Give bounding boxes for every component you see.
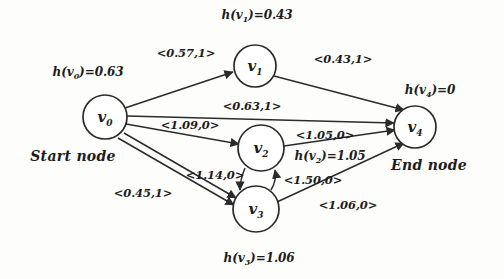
edge-label-v3-v4: <1.06,0> [319,198,378,212]
edge-label-v2-v4: <1.05,0> [296,128,355,142]
heuristic-label-v0: h(v0)=0.63 [53,65,124,81]
edge-v3-v2 [271,170,276,190]
diagram-canvas: v0 v1 v2 v3 v4 h(v0)=0.63 h(v1)=0.43 h(v… [0,0,504,279]
end-node-label: End node [391,157,467,173]
edge-label-v0-v3-a: <1.14,0> [186,168,245,182]
node-label-v4: v4 [408,118,423,138]
edge-label-v3-v2: <1.50,0> [284,173,343,187]
heuristic-label-v2: h(v2)=1.05 [295,149,366,165]
start-node-label: Start node [30,148,116,164]
edge-label-v1-v4: <0.43,1> [314,52,373,66]
edge-label-v0-v2: <1.09,0> [161,118,220,132]
edge-label-v0-v3-b: <0.45,1> [114,186,173,200]
node-label-v0: v0 [98,108,113,128]
heuristic-label-v4: h(v4)=0 [405,83,455,99]
node-label-v3: v3 [249,200,264,220]
node-label-v1: v1 [248,57,263,77]
edge-label-v0-v1: <0.57,1> [157,46,216,60]
heuristic-label-v1: h(v1)=0.43 [222,8,293,24]
node-label-v2: v2 [254,139,269,159]
edge-v1-v4 [274,76,404,110]
graph-svg [0,0,504,279]
heuristic-label-v3: h(v3)=1.06 [224,251,295,267]
edge-v0-v1 [125,72,233,108]
edge-label-v0-v4: <0.63,1> [223,99,282,113]
